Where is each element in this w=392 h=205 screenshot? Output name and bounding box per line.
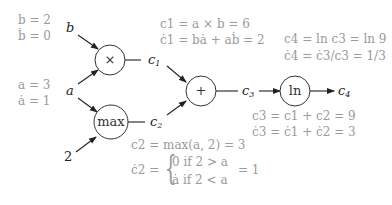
edge-label-c1: c1	[148, 53, 160, 68]
annotation-a-derivative: ȧ = 1	[18, 95, 50, 107]
edge-b-mul	[78, 35, 98, 49]
annotation-c1-derivative: ċ1 = bȧ + aḃ = 2	[160, 34, 265, 46]
edge-c2-add	[167, 101, 186, 115]
edge-c1-add	[167, 66, 186, 82]
annotation-b-value: b = 2	[18, 14, 51, 26]
node-multiply-op: ×	[100, 53, 120, 66]
edge-label-c3: c3	[242, 84, 254, 99]
edge-label-c4: c4	[338, 84, 350, 99]
node-add-op: +	[191, 84, 211, 97]
computational-graph-diagram: × max + ln b a 2 c1 c2 c3 c4 b = 2 ḃ = 0…	[0, 0, 392, 205]
edge-a-max	[78, 98, 97, 112]
annotation-b-derivative: ḃ = 0	[18, 30, 51, 42]
edge-a-mul	[78, 70, 98, 84]
annotation-a-value: a = 3	[18, 79, 50, 91]
annotation-c4-derivative: ċ4 = ċ3/c3 = 1/3	[284, 50, 386, 62]
node-ln-op: ln	[285, 84, 305, 97]
input-constant-label: 2	[64, 150, 72, 163]
input-a-label: a	[66, 84, 74, 97]
edge-label-c2: c2	[150, 115, 162, 130]
annotation-c3-value: c3 = c1 + c2 = 9	[252, 110, 356, 122]
annotation-c2-derivative-lhs: ċ2 =	[131, 164, 159, 176]
annotation-c2-derivative-rhs: = 1	[238, 164, 260, 176]
input-b-label: b	[66, 21, 74, 34]
annotation-c2-case-2: ȧ if 2 < a	[172, 174, 228, 186]
annotation-c2-case-1: 0 if 2 > a	[172, 156, 228, 168]
annotation-c2-value: c2 = max(a, 2) = 3	[131, 139, 245, 151]
annotation-c3-derivative: ċ3 = ċ1 + ċ2 = 3	[252, 126, 356, 138]
annotation-c4-value: c4 = ln c3 = ln 9	[284, 33, 386, 45]
annotation-c1-value: c1 = a × b = 6	[160, 18, 250, 30]
node-max-op: max	[95, 115, 127, 128]
edge-2-max	[76, 137, 96, 152]
